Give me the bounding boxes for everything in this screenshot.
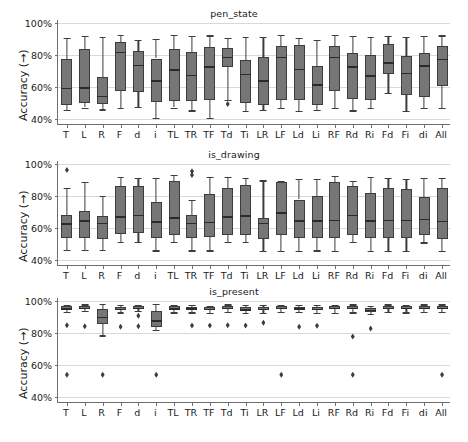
box-is_drawing-Ti[interactable] [240,161,251,265]
box-pen_state-LR[interactable] [258,20,269,124]
box-pen_state-di[interactable] [419,20,430,124]
box-is_drawing-Ld[interactable] [294,161,305,265]
box-pen_state-TL[interactable] [169,20,180,124]
box-pen_state-All[interactable] [437,20,448,124]
box-is_present-Ti[interactable] [240,298,251,402]
box-is_drawing-Rd[interactable] [347,161,358,265]
box-is_drawing-d[interactable] [133,161,144,265]
box-is_present-All[interactable] [437,298,448,402]
xtick-label-R: R [98,407,105,418]
box-body [240,185,251,235]
box-pen_state-Td[interactable] [222,20,233,124]
box-is_present-Td[interactable] [222,298,233,402]
box-pen_state-i[interactable] [151,20,162,124]
box-is_drawing-L[interactable] [79,161,90,265]
whisker-cap-upper [189,36,196,37]
box-pen_state-Li[interactable] [312,20,323,124]
xtick-mark-Ti [246,125,247,128]
box-is_drawing-LF[interactable] [276,161,287,265]
outlier-marker [279,372,283,378]
box-pen_state-F[interactable] [115,20,126,124]
box-is_present-Fi[interactable] [401,298,412,402]
box-is_drawing-Fd[interactable] [383,161,394,265]
median-line [401,308,412,309]
box-pen_state-Ri[interactable] [365,20,376,124]
box-is_drawing-RF[interactable] [329,161,340,265]
box-is_drawing-Li[interactable] [312,161,323,265]
box-pen_state-RF[interactable] [329,20,340,124]
box-is_present-Fd[interactable] [383,298,394,402]
box-pen_state-TF[interactable] [204,20,215,124]
box-is_present-i[interactable] [151,298,162,402]
box-pen_state-d[interactable] [133,20,144,124]
box-is_drawing-Ri[interactable] [365,161,376,265]
xtick-mark-di [424,266,425,269]
box-is_present-Ri[interactable] [365,298,376,402]
whisker-upper [441,178,442,188]
whisker-upper [84,36,85,48]
box-is_present-TR[interactable] [186,298,197,402]
box-pen_state-L[interactable] [79,20,90,124]
xtick-mark-Ri [371,403,372,406]
whisker-lower [388,74,389,92]
box-body [258,218,269,239]
box-is_drawing-TR[interactable] [186,161,197,265]
box-is_present-Rd[interactable] [347,298,358,402]
box-is_drawing-TL[interactable] [169,161,180,265]
whisker-upper [299,179,300,200]
box-is_drawing-TF[interactable] [204,161,215,265]
xtick-mark-Ri [371,266,372,269]
box-is_present-Li[interactable] [312,298,323,402]
box-is_present-F[interactable] [115,298,126,402]
whisker-cap-upper [189,305,196,306]
box-pen_state-TR[interactable] [186,20,197,124]
box-pen_state-R[interactable] [97,20,108,124]
whisker-upper [191,36,192,52]
xtick-label-i: i [154,129,157,140]
box-pen_state-Ld[interactable] [294,20,305,124]
median-line [115,52,126,53]
box-is_present-d[interactable] [133,298,144,402]
box-pen_state-Rd[interactable] [347,20,358,124]
box-is_drawing-R[interactable] [97,161,108,265]
median-line [169,69,180,70]
box-pen_state-Fi[interactable] [401,20,412,124]
xtick-mark-TF [210,125,211,128]
box-is_drawing-All[interactable] [437,161,448,265]
whisker-lower [245,103,246,111]
box-is_present-Ld[interactable] [294,298,305,402]
plot-area-pen_state [57,20,450,125]
box-is_present-LF[interactable] [276,298,287,402]
box-body [419,197,430,236]
box-is_present-R[interactable] [97,298,108,402]
whisker-cap-upper [99,196,106,197]
box-is_drawing-Td[interactable] [222,161,233,265]
box-is_present-TF[interactable] [204,298,215,402]
box-pen_state-Fd[interactable] [383,20,394,124]
xtick-label-Fd: Fd [382,129,394,140]
box-is_drawing-i[interactable] [151,161,162,265]
box-is_drawing-LR[interactable] [258,161,269,265]
whisker-cap-upper [385,178,392,179]
whisker-cap-lower [153,250,160,251]
box-body [115,42,126,91]
box-is_present-RF[interactable] [329,298,340,402]
box-is_drawing-Fi[interactable] [401,161,412,265]
xtick-label-Fd: Fd [382,270,394,281]
box-is_present-TL[interactable] [169,298,180,402]
box-is_present-T[interactable] [61,298,72,402]
box-pen_state-Ti[interactable] [240,20,251,124]
box-is_present-L[interactable] [79,298,90,402]
box-is_drawing-F[interactable] [115,161,126,265]
box-pen_state-T[interactable] [61,20,72,124]
box-pen_state-LF[interactable] [276,20,287,124]
box-is_present-di[interactable] [419,298,430,402]
xtick-label-Fd: Fd [382,407,394,418]
box-is_drawing-di[interactable] [419,161,430,265]
box-is_present-LR[interactable] [258,298,269,402]
whisker-upper [138,178,139,186]
box-is_drawing-T[interactable] [61,161,72,265]
xtick-mark-L [85,266,86,269]
axes-pen_state [57,20,450,125]
whisker-lower [352,99,353,111]
